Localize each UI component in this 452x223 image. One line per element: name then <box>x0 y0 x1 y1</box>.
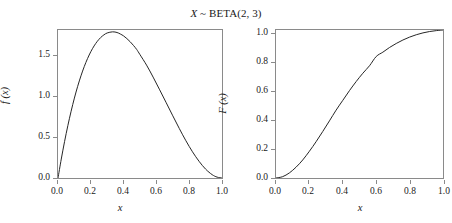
pdf-panel: 1.5 1.0 0.5 0.0 0.0 0.2 0.4 0.6 0.8 1.0 … <box>0 0 232 223</box>
cdf-yticklabel-0.0: 0.0 <box>236 173 268 183</box>
cdf-xticklabel-0.2: 0.2 <box>293 187 323 197</box>
cdf-ytick-0.2 <box>271 149 275 150</box>
svg-pdf-path <box>58 32 222 178</box>
pdf-xticklabel-0.4: 0.4 <box>108 187 138 197</box>
cdf-xtick-0.6 <box>376 180 377 184</box>
pdf-ytick-1.0 <box>53 96 57 97</box>
cdf-xticklabel-0.0: 0.0 <box>260 187 290 197</box>
pdf-yticklabel-0.0: 0.0 <box>18 173 50 183</box>
cdf-xticklabel-0.8: 0.8 <box>395 187 425 197</box>
pdf-ytick-1.5 <box>53 55 57 56</box>
pdf-ytick-0.0 <box>53 178 57 179</box>
pdf-curve-layer <box>58 30 222 178</box>
pdf-xticklabel-0.2: 0.2 <box>75 187 105 197</box>
cdf-ytick-0.6 <box>271 91 275 92</box>
cdf-yticklabel-0.8: 0.8 <box>236 57 268 67</box>
pdf-xticklabel-0.6: 0.6 <box>141 187 171 197</box>
pdf-xtick-0.4 <box>123 180 124 184</box>
cdf-yticklabel-0.6: 0.6 <box>236 86 268 96</box>
pdf-yaxis-label: f (x) <box>0 74 10 118</box>
pdf-xtick-0.8 <box>189 180 190 184</box>
cdf-panel: 1.0 0.8 0.6 0.4 0.2 0.0 0.0 0.2 0.4 0.6 … <box>218 0 452 223</box>
cdf-ytick-0.0 <box>271 178 275 179</box>
cdf-xticklabel-0.4: 0.4 <box>327 187 357 197</box>
cdf-yticklabel-0.2: 0.2 <box>236 144 268 154</box>
figure-container: X ~ BETA(2, 3) 1.5 1.0 0.5 0.0 0.0 0.2 0… <box>0 0 452 223</box>
cdf-xticklabel-0.6: 0.6 <box>361 187 391 197</box>
cdf-xtick-1.0 <box>444 180 445 184</box>
cdf-xtick-0.0 <box>275 180 276 184</box>
svg-cdf-path <box>276 30 443 178</box>
cdf-xtick-0.4 <box>342 180 343 184</box>
cdf-ytick-1.0 <box>271 33 275 34</box>
pdf-ytick-0.5 <box>53 137 57 138</box>
cdf-xaxis-label: x <box>340 202 380 213</box>
cdf-xtick-0.8 <box>410 180 411 184</box>
pdf-yticklabel-0.5: 0.5 <box>18 132 50 142</box>
cdf-yaxis-label: F (x) <box>217 82 228 126</box>
pdf-xtick-0.0 <box>57 180 58 184</box>
pdf-yticklabel-1.5: 1.5 <box>18 50 50 60</box>
pdf-xticklabel-0.8: 0.8 <box>174 187 204 197</box>
pdf-xticklabel-0.0: 0.0 <box>42 187 72 197</box>
cdf-xtick-0.2 <box>308 180 309 184</box>
cdf-yticklabel-0.4: 0.4 <box>236 115 268 125</box>
cdf-ytick-0.8 <box>271 62 275 63</box>
cdf-ytick-0.4 <box>271 120 275 121</box>
pdf-xtick-0.6 <box>156 180 157 184</box>
pdf-yticklabel-1.0: 1.0 <box>18 91 50 101</box>
pdf-xaxis-label: x <box>100 202 140 213</box>
cdf-curve-layer <box>276 30 443 178</box>
cdf-xticklabel-1.0: 1.0 <box>429 187 452 197</box>
pdf-xtick-0.2 <box>90 180 91 184</box>
cdf-yticklabel-1.0: 1.0 <box>236 28 268 38</box>
